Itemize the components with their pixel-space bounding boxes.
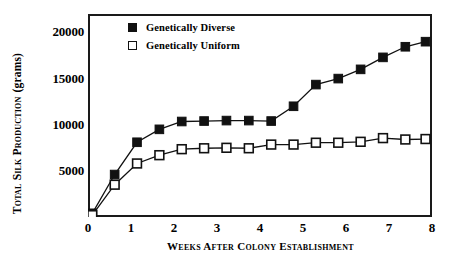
data-point-open-square: [200, 144, 209, 153]
data-point-open-square: [379, 134, 388, 143]
x-tick-label: 8: [419, 220, 445, 236]
y-tick-label: 10000: [2, 117, 84, 133]
data-point-filled-square: [289, 102, 298, 111]
y-tick-label: 20000: [2, 24, 84, 40]
data-point-open-square: [356, 137, 365, 146]
legend-item-uniform: Genetically Uniform: [128, 38, 278, 53]
data-point-filled-square: [356, 65, 365, 74]
x-tick-label: 1: [118, 220, 144, 236]
data-point-open-square: [421, 135, 430, 144]
data-point-filled-square: [177, 117, 186, 126]
y-tick-label: 15000: [2, 71, 84, 87]
data-point-open-square: [401, 135, 410, 144]
data-point-filled-square: [110, 170, 119, 179]
data-point-filled-square: [312, 80, 321, 89]
legend-label-uniform: Genetically Uniform: [146, 40, 240, 51]
data-point-filled-square: [133, 138, 142, 147]
open-square-icon: [128, 41, 137, 50]
x-tick-label: 6: [333, 220, 359, 236]
x-axis-title: Weeks After Colony Establishment: [88, 240, 433, 252]
legend-item-diverse: Genetically Diverse: [128, 20, 278, 35]
y-tick-label: 5000: [2, 163, 84, 179]
data-point-open-square: [289, 140, 298, 149]
data-point-open-square: [267, 140, 276, 149]
data-point-filled-square: [200, 117, 209, 126]
data-point-filled-square: [421, 37, 430, 46]
x-tick-label: 2: [161, 220, 187, 236]
data-point-open-square: [244, 144, 253, 153]
data-point-filled-square: [245, 116, 254, 125]
y-axis-ticks: 5000100001500020000: [0, 0, 84, 267]
data-point-open-square: [110, 180, 119, 189]
data-point-open-square: [133, 159, 142, 168]
data-point-open-square: [155, 151, 164, 160]
data-point-open-square: [334, 138, 343, 147]
data-point-open-square: [177, 145, 186, 154]
chart-legend: Genetically Diverse Genetically Uniform: [128, 20, 278, 56]
data-point-filled-square: [379, 53, 388, 62]
filled-square-icon: [128, 23, 137, 32]
data-point-open-square: [222, 143, 231, 152]
data-point-open-square: [312, 138, 321, 147]
series-line: [92, 42, 425, 214]
legend-label-diverse: Genetically Diverse: [146, 22, 235, 33]
data-point-filled-square: [267, 117, 276, 126]
data-point-filled-square: [155, 125, 164, 134]
data-point-open-square: [88, 211, 97, 217]
x-tick-label: 0: [75, 220, 101, 236]
chart-figure: Total Silk Production (grams) 5000100001…: [0, 0, 460, 267]
x-tick-label: 4: [247, 220, 273, 236]
data-point-filled-square: [334, 74, 343, 83]
series-line: [92, 138, 425, 215]
x-tick-label: 5: [290, 220, 316, 236]
data-point-filled-square: [401, 42, 410, 51]
x-tick-label: 3: [204, 220, 230, 236]
x-tick-label: 7: [376, 220, 402, 236]
data-point-filled-square: [222, 116, 231, 125]
